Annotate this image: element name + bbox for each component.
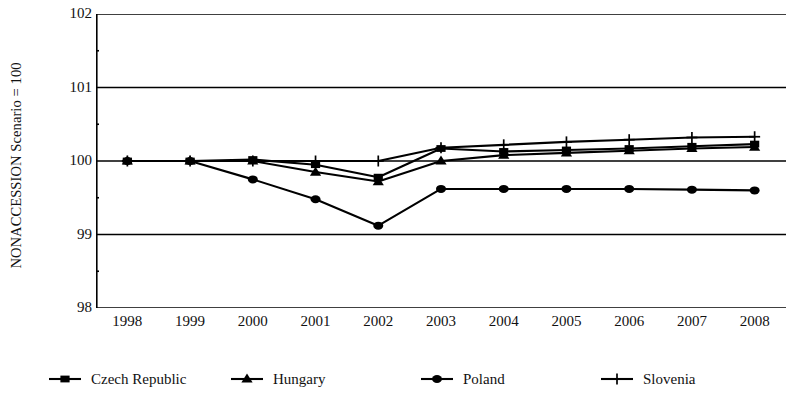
x-tick-label-1999: 1999 bbox=[175, 314, 205, 329]
data-point-3-4 bbox=[373, 156, 384, 167]
x-tick-label-2007: 2007 bbox=[677, 314, 707, 329]
data-point-2-9 bbox=[687, 186, 697, 194]
data-point-2-3 bbox=[311, 195, 321, 203]
x-tick-label-1998: 1998 bbox=[112, 314, 142, 329]
data-point-3-9 bbox=[686, 132, 697, 143]
triangle-marker-icon bbox=[230, 371, 264, 387]
legend-item-slovenia[interactable]: Slovenia bbox=[600, 368, 696, 390]
y-tick-label-100: 100 bbox=[46, 153, 92, 168]
plus-marker-icon bbox=[600, 371, 634, 387]
legend-marker bbox=[60, 376, 69, 383]
legend-marker bbox=[432, 375, 442, 383]
series-poland bbox=[122, 157, 759, 230]
y-axis-title: NONACCESSION Scenario = 100 bbox=[0, 0, 32, 330]
data-point-3-8 bbox=[624, 134, 635, 145]
legend-marker bbox=[612, 374, 623, 385]
y-tick-label-102: 102 bbox=[46, 6, 92, 21]
square-marker-icon bbox=[48, 371, 82, 387]
data-point-2-8 bbox=[624, 185, 634, 193]
legend-item-czech-republic[interactable]: Czech Republic bbox=[48, 368, 186, 390]
data-point-3-0 bbox=[122, 156, 133, 167]
data-point-2-4 bbox=[373, 222, 383, 230]
line-chart: NONACCESSION Scenario = 100 989910010110… bbox=[0, 0, 803, 398]
legend-label: Poland bbox=[463, 372, 505, 387]
x-axis-tick-labels: 1998199920002001200220032004200520062007… bbox=[96, 312, 786, 336]
x-tick-label-2004: 2004 bbox=[489, 314, 519, 329]
y-axis-title-text: NONACCESSION Scenario = 100 bbox=[8, 62, 25, 268]
y-axis-tick-labels: 9899100101102 bbox=[40, 0, 92, 330]
plot-area bbox=[96, 14, 786, 308]
data-point-2-5 bbox=[436, 185, 446, 193]
legend-label: Czech Republic bbox=[91, 372, 186, 387]
x-tick-label-2000: 2000 bbox=[238, 314, 268, 329]
x-tick-label-2001: 2001 bbox=[301, 314, 331, 329]
x-tick-label-2002: 2002 bbox=[363, 314, 393, 329]
data-point-3-7 bbox=[561, 136, 572, 147]
x-tick-label-2005: 2005 bbox=[551, 314, 581, 329]
circle-marker-icon bbox=[420, 371, 454, 387]
legend-label: Slovenia bbox=[643, 372, 696, 387]
y-tick-label-99: 99 bbox=[46, 227, 92, 242]
legend-item-hungary[interactable]: Hungary bbox=[230, 368, 326, 390]
legend-item-poland[interactable]: Poland bbox=[420, 368, 505, 390]
data-point-3-1 bbox=[185, 156, 196, 167]
x-tick-label-2008: 2008 bbox=[740, 314, 770, 329]
data-point-2-7 bbox=[561, 185, 571, 193]
plot-svg bbox=[96, 14, 786, 308]
y-tick-label-101: 101 bbox=[46, 80, 92, 95]
series-line-2 bbox=[127, 161, 754, 226]
data-point-2-2 bbox=[248, 175, 258, 183]
x-tick-label-2003: 2003 bbox=[426, 314, 456, 329]
y-tick-label-98: 98 bbox=[46, 300, 92, 315]
legend-label: Hungary bbox=[273, 372, 326, 387]
data-point-2-6 bbox=[499, 185, 509, 193]
x-tick-label-2006: 2006 bbox=[614, 314, 644, 329]
chart-legend: Czech RepublicHungaryPolandSlovenia bbox=[0, 362, 803, 396]
data-point-2-10 bbox=[750, 186, 760, 194]
data-point-3-10 bbox=[749, 131, 760, 142]
